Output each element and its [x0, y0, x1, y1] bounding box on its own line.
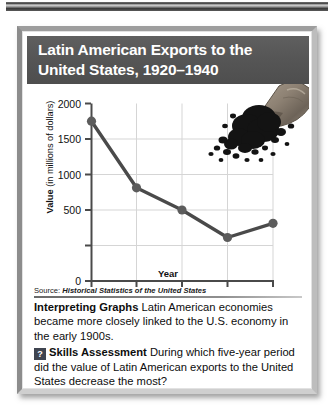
interpreting-graphs-paragraph: Interpreting Graphs Latin American econo…	[34, 300, 304, 343]
svg-text:2000: 2000	[58, 98, 82, 110]
source-title: Historical Statistics of the United Stat…	[62, 286, 206, 295]
y-tick-labels: 2000 1500 1000 500 0	[58, 98, 82, 288]
chart-figure: 2000 1500 1000 500 0 1920 1925 1930 1935…	[27, 84, 309, 289]
top-decorative-rule	[6, 2, 328, 11]
panel-inner-border: Latin American Exports to theUnited Stat…	[22, 31, 312, 389]
svg-text:1000: 1000	[58, 169, 82, 181]
y-axis-label-rest: (in millions of dollars)	[45, 101, 55, 190]
skills-assessment-heading: Skills Assessment	[49, 346, 147, 358]
section-divider	[34, 296, 302, 298]
y-axis-label-bold: Value	[45, 189, 55, 213]
chart-title-band: Latin American Exports to theUnited Stat…	[27, 36, 309, 84]
y-axis-ticks	[85, 104, 91, 282]
svg-text:1500: 1500	[58, 133, 82, 145]
feature-panel: Latin American Exports to theUnited Stat…	[17, 26, 317, 394]
coffee-sack-icon	[203, 84, 309, 182]
y-axis-label: Value (in millions of dollars)	[45, 87, 55, 227]
source-line: Source: Historical Statistics of the Uni…	[34, 286, 302, 295]
x-axis-label: Year	[27, 268, 309, 279]
interpreting-graphs-heading: Interpreting Graphs	[34, 301, 138, 313]
question-mark-icon: ?	[34, 348, 46, 360]
page-title: Latin American Exports to theUnited Stat…	[38, 40, 288, 80]
svg-text:500: 500	[63, 204, 81, 216]
skills-assessment-paragraph: ?Skills Assessment During which five-yea…	[34, 345, 304, 389]
source-prefix: Source:	[34, 286, 62, 295]
